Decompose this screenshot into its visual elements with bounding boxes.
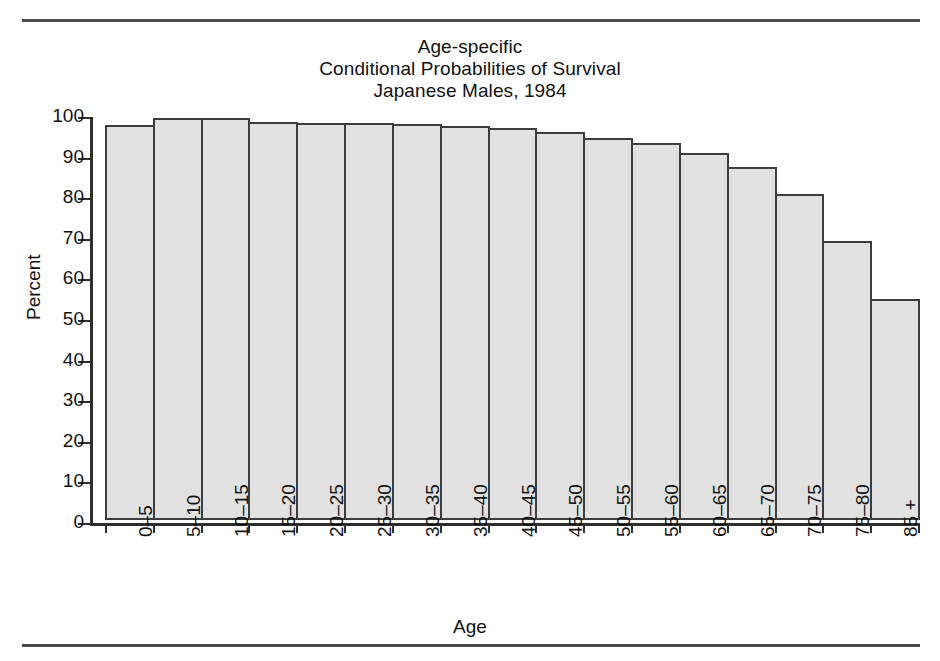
bar xyxy=(727,167,777,520)
x-tick-label: 20–25 xyxy=(327,484,346,537)
bar xyxy=(822,241,872,520)
bar xyxy=(631,143,681,520)
x-axis-title: Age xyxy=(0,617,940,636)
bar xyxy=(105,125,155,520)
y-tick-label: 70 xyxy=(24,228,84,247)
bar xyxy=(775,194,825,520)
bar xyxy=(535,132,585,520)
figure: Age-specific Conditional Probabilities o… xyxy=(0,0,940,661)
bar xyxy=(583,138,633,520)
y-tick-label: 30 xyxy=(24,390,84,409)
bar xyxy=(440,126,490,520)
x-tick-label: 70–75 xyxy=(805,484,824,537)
bar xyxy=(679,153,729,520)
x-tick-label: 55–60 xyxy=(662,484,681,537)
x-tick-label: 45–50 xyxy=(566,484,585,537)
y-tick-label: 80 xyxy=(24,187,84,206)
y-tick-label: 50 xyxy=(24,309,84,328)
chart-title-line-1: Age-specific xyxy=(0,36,940,58)
bar xyxy=(344,123,394,520)
plot-area: 0102030405060708090100 xyxy=(90,117,920,523)
chart-title: Age-specific Conditional Probabilities o… xyxy=(0,36,940,102)
x-tick-label: 75–80 xyxy=(853,484,872,537)
x-tick-label: 15–20 xyxy=(279,484,298,537)
x-tick-mark xyxy=(105,523,107,533)
bar xyxy=(201,118,251,520)
bar xyxy=(488,128,538,520)
bottom-divider-rule xyxy=(22,644,920,647)
y-tick-label: 90 xyxy=(24,147,84,166)
y-tick-label: 10 xyxy=(24,471,84,490)
chart-title-line-2: Conditional Probabilities of Survival xyxy=(0,58,940,80)
x-tick-label: 60–65 xyxy=(710,484,729,537)
bar xyxy=(153,118,203,520)
chart-title-line-3: Japanese Males, 1984 xyxy=(0,80,940,102)
x-tick-label: 85 + xyxy=(901,499,920,537)
top-divider-rule xyxy=(22,19,920,22)
y-tick-label: 40 xyxy=(24,350,84,369)
x-axis-line xyxy=(90,523,920,526)
x-tick-label: 10–15 xyxy=(232,484,251,537)
x-tick-label: 40–45 xyxy=(519,484,538,537)
bar xyxy=(392,124,442,520)
x-tick-label: 65–70 xyxy=(758,484,777,537)
bar xyxy=(296,123,346,520)
x-tick-label: 35–40 xyxy=(471,484,490,537)
x-tick-label: 50–55 xyxy=(614,484,633,537)
x-tick-label: 5–10 xyxy=(184,495,203,537)
x-tick-label: 0–5 xyxy=(136,505,155,537)
y-tick-label: 20 xyxy=(24,431,84,450)
y-tick-label: 0 xyxy=(24,512,84,531)
x-tick-label: 30–35 xyxy=(423,484,442,537)
x-tick-label: 25–30 xyxy=(375,484,394,537)
y-tick-label: 60 xyxy=(24,268,84,287)
y-tick-label: 100 xyxy=(24,106,84,125)
bar xyxy=(870,299,920,520)
bar xyxy=(248,122,298,520)
